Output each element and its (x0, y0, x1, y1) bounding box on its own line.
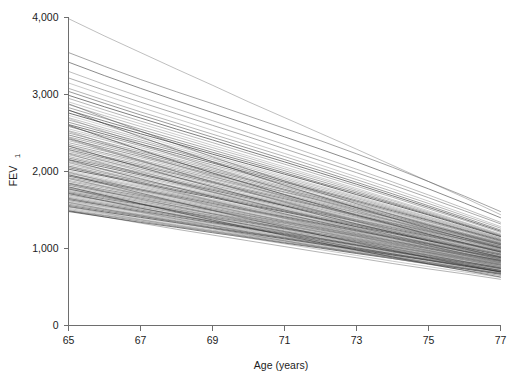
x-tick-label: 67 (135, 334, 147, 346)
x-tick-label: 73 (351, 334, 363, 346)
x-tick-label: 75 (423, 334, 435, 346)
y-axis-title-subscript: 1 (13, 154, 22, 158)
y-tick-label: 3,000 (32, 88, 58, 100)
y-tick-label: 2,000 (32, 165, 58, 177)
y-axis-title-text: FEV (7, 166, 19, 186)
y-tick-label: 4,000 (32, 11, 58, 23)
x-axis-title: Age (years) (254, 359, 308, 371)
x-tick-label: 69 (207, 334, 219, 346)
x-tick-label: 77 (495, 334, 507, 346)
chart-plot-svg: 01,0002,0003,0004,000 65676971737577 FEV… (0, 0, 513, 381)
y-tick-label: 0 (53, 319, 59, 331)
x-tick-label: 71 (279, 334, 291, 346)
x-tick-label: 65 (63, 334, 75, 346)
chart-figure: 01,0002,0003,0004,000 65676971737577 FEV… (0, 0, 513, 381)
y-tick-label: 1,000 (32, 242, 58, 254)
